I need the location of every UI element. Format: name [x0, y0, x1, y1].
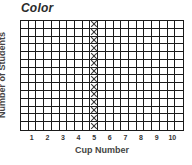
grid-cell	[175, 29, 183, 37]
grid-cell	[60, 60, 68, 68]
tally-mark-cell	[90, 91, 98, 99]
grid-cell	[152, 114, 160, 122]
grid-cell	[98, 29, 106, 37]
grid-cell	[29, 114, 37, 122]
grid-cell	[137, 99, 145, 107]
grid-cell	[44, 99, 52, 107]
grid-cell	[152, 37, 160, 45]
grid-cell	[60, 83, 68, 91]
grid-cell	[152, 44, 160, 52]
tally-mark-cell	[90, 122, 98, 130]
grid-cell	[36, 83, 44, 91]
grid-cell	[29, 52, 37, 60]
grid-cell	[114, 122, 122, 130]
grid-cell	[106, 44, 114, 52]
grid-cell	[168, 37, 176, 45]
grid-cell	[83, 114, 91, 122]
grid-cell	[175, 37, 183, 45]
grid-cell	[121, 52, 129, 60]
grid-cell	[29, 107, 37, 115]
grid-cell	[114, 75, 122, 83]
grid-cell	[75, 52, 83, 60]
grid-cell	[160, 52, 168, 60]
grid-cell	[121, 75, 129, 83]
tally-mark-cell	[90, 29, 98, 37]
grid-cell	[160, 122, 168, 130]
grid-cell	[67, 44, 75, 52]
grid-cell	[129, 37, 137, 45]
grid-cell	[21, 107, 29, 115]
grid-cell	[168, 44, 176, 52]
grid-cell	[52, 83, 60, 91]
grid-cell	[36, 99, 44, 107]
grid-cell	[98, 99, 106, 107]
grid-cell	[175, 60, 183, 68]
grid-cell	[75, 122, 83, 130]
grid-cell	[98, 60, 106, 68]
grid-cell	[36, 21, 44, 29]
grid-cell	[152, 99, 160, 107]
grid-cell	[106, 83, 114, 91]
grid-cell	[168, 68, 176, 76]
grid-cell	[114, 114, 122, 122]
grid-cell	[121, 107, 129, 115]
grid-cell	[160, 114, 168, 122]
grid-cell	[44, 21, 52, 29]
grid-cell	[137, 83, 145, 91]
grid-cell	[29, 75, 37, 83]
grid-cell	[114, 68, 122, 76]
grid-cell	[175, 68, 183, 76]
grid-cell	[160, 107, 168, 115]
grid-cell	[44, 60, 52, 68]
grid-cell	[21, 52, 29, 60]
grid-cell	[67, 99, 75, 107]
grid-cell	[137, 52, 145, 60]
grid-cell	[29, 68, 37, 76]
grid-cell	[98, 75, 106, 83]
grid-cell	[52, 107, 60, 115]
grid-cell	[52, 29, 60, 37]
grid-cell	[137, 60, 145, 68]
grid-cell	[75, 21, 83, 29]
grid-cell	[106, 29, 114, 37]
grid-cell	[137, 44, 145, 52]
grid-cell	[144, 37, 152, 45]
grid-cell	[52, 52, 60, 60]
x-tick-label: 2	[45, 134, 49, 141]
x-tick-label: 9	[155, 134, 159, 141]
grid-cell	[36, 44, 44, 52]
grid-cell	[21, 29, 29, 37]
tally-mark-cell	[90, 44, 98, 52]
grid-cell	[152, 91, 160, 99]
grid-cell	[168, 21, 176, 29]
grid-cell	[29, 37, 37, 45]
grid-cell	[44, 83, 52, 91]
grid-cell	[137, 75, 145, 83]
tally-grid	[20, 20, 184, 131]
chart-title: Color	[21, 1, 53, 15]
grid-cell	[36, 29, 44, 37]
grid-cell	[98, 21, 106, 29]
grid-cell	[168, 52, 176, 60]
grid-cell	[106, 37, 114, 45]
grid-cell	[106, 114, 114, 122]
grid-cell	[144, 52, 152, 60]
y-axis-label-text: Number of Students	[0, 32, 7, 118]
grid-cell	[121, 114, 129, 122]
grid-cell	[98, 37, 106, 45]
grid-cell	[152, 83, 160, 91]
grid-cell	[36, 37, 44, 45]
grid-cell	[52, 91, 60, 99]
grid-cell	[21, 114, 29, 122]
grid-cell	[121, 83, 129, 91]
grid-cell	[129, 114, 137, 122]
x-tick-label: 7	[123, 134, 127, 141]
grid-cell	[121, 44, 129, 52]
grid-cell	[114, 91, 122, 99]
grid-cell	[98, 114, 106, 122]
grid-cell	[129, 83, 137, 91]
grid-cell	[152, 68, 160, 76]
grid-cell	[60, 44, 68, 52]
grid-cell	[114, 99, 122, 107]
grid-cell	[52, 99, 60, 107]
